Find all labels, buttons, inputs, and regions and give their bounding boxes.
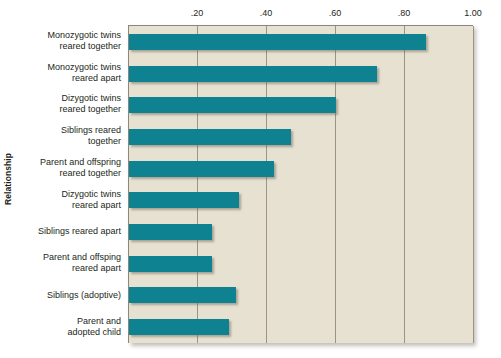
x-axis-tick-label: 1.00 [464, 8, 482, 18]
y-axis-category-label-line: Monozygotic twins [47, 62, 121, 73]
y-axis-category-label-line: Dizygotic twins [59, 93, 121, 104]
y-axis-category-label-line: reared apart [47, 73, 121, 84]
y-axis-category-label: Parent and offspingreared apart [16, 248, 126, 280]
y-axis-category-label: Parent andadopted child [16, 311, 126, 343]
y-axis-category-label-line: Siblings reared [61, 125, 121, 136]
bar-row [129, 26, 473, 58]
y-axis-category-label-line: Dizygotic twins [61, 189, 121, 200]
bar[interactable] [129, 97, 336, 113]
bar-row [129, 121, 473, 153]
x-axis-tick-label: .60 [329, 8, 342, 18]
y-axis-category-label: Dizygotic twinsreared apart [16, 184, 126, 216]
bar[interactable] [129, 256, 212, 272]
bar-chart-figure: Relationship Monozygotic twinsreared tog… [0, 0, 501, 358]
bar[interactable] [129, 66, 377, 82]
bar[interactable] [129, 129, 291, 145]
y-axis-category-label: Siblings reared apart [16, 216, 126, 248]
y-axis-category-label-line: reared together [40, 168, 121, 179]
y-axis-category-labels: Monozygotic twinsreared togetherMonozygo… [16, 25, 126, 343]
y-axis-category-label-line: reared together [47, 41, 121, 52]
y-axis-category-label-line: reared apart [43, 263, 121, 274]
bar[interactable] [129, 224, 212, 240]
bar-row [129, 153, 473, 185]
y-axis-category-label-line: reared together [59, 104, 121, 115]
bar-row [129, 280, 473, 312]
y-axis-category-label: Dizygotic twinsreared together [16, 89, 126, 121]
y-axis-category-label-line: adopted child [67, 327, 121, 338]
gridline [473, 26, 474, 343]
bar-row [129, 185, 473, 217]
bar[interactable] [129, 192, 239, 208]
y-axis-category-label-line: Parent and [67, 316, 121, 327]
x-axis-tick-label: .80 [398, 8, 411, 18]
y-axis-category-label: Monozygotic twinsreared apart [16, 57, 126, 89]
bar-row [129, 89, 473, 121]
y-axis-category-label-line: reared apart [61, 200, 121, 211]
bar[interactable] [129, 319, 229, 335]
bar-row [129, 216, 473, 248]
y-axis-category-label-line: Parent and offspring [40, 157, 121, 168]
x-axis-tick-label: .40 [260, 8, 273, 18]
y-axis-title-text: Relationship [3, 153, 13, 205]
bar-row [129, 58, 473, 90]
y-axis-category-label: Siblings rearedtogether [16, 120, 126, 152]
plot-area [128, 25, 473, 343]
bar-row [129, 248, 473, 280]
bar-series [129, 26, 473, 343]
y-axis-category-label: Siblings (adoptive) [16, 279, 126, 311]
y-axis-category-label-line: Monozygotic twins [47, 30, 121, 41]
y-axis-category-label-line: together [61, 136, 121, 147]
bar-row [129, 311, 473, 343]
y-axis-category-label-line: Parent and offsping [43, 252, 121, 263]
x-axis-tick-labels: .20.40.60.801.00 [128, 8, 473, 22]
bar[interactable] [129, 161, 274, 177]
bar[interactable] [129, 287, 236, 303]
x-axis-tick-label: .20 [191, 8, 204, 18]
y-axis-category-label: Parent and offspringreared together [16, 152, 126, 184]
y-axis-title: Relationship [0, 0, 16, 358]
bar[interactable] [129, 34, 426, 50]
y-axis-category-label: Monozygotic twinsreared together [16, 25, 126, 57]
y-axis-category-label-line: Siblings reared apart [38, 226, 121, 237]
y-axis-category-label-line: Siblings (adoptive) [47, 290, 121, 301]
